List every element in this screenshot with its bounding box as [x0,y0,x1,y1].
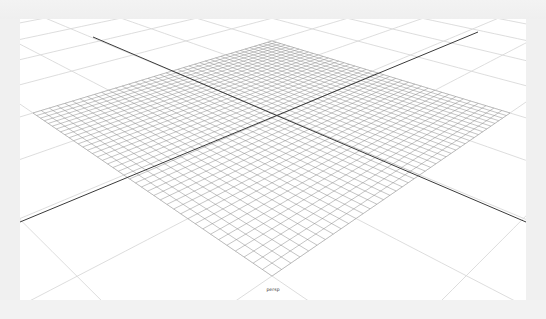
viewport-bottom-border [0,300,546,319]
ground-grid [20,19,526,300]
viewport-top-border [0,0,546,19]
camera-label: persp [20,287,526,292]
perspective-viewport[interactable]: persp [20,19,526,300]
